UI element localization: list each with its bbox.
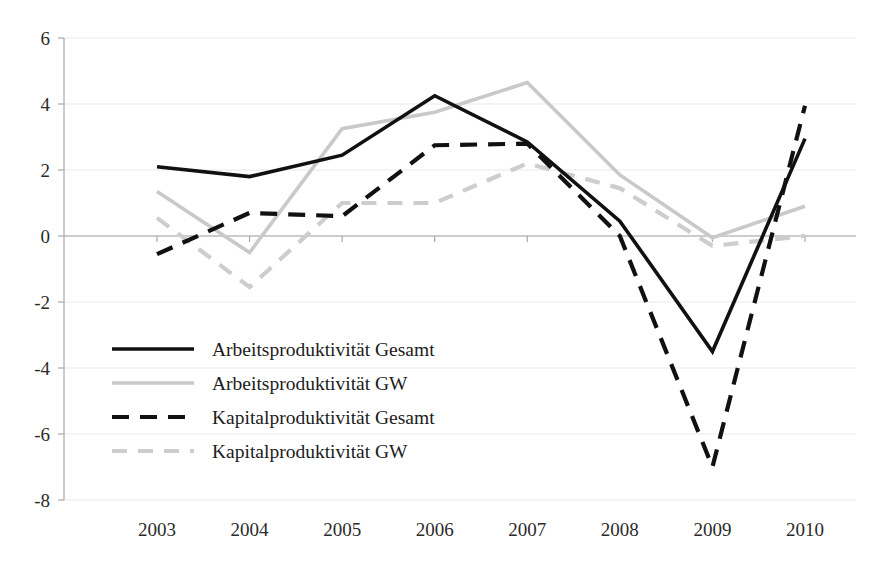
y-axis-label-0: 0 (41, 226, 51, 247)
x-axis-label-2004: 2004 (231, 519, 270, 540)
y-axis-label-4: 4 (41, 94, 51, 115)
line-chart: 6420-2-4-6-8 200320042005200620072008200… (0, 0, 870, 567)
series-line-arbeitsproduktivit-t-gw (157, 83, 805, 253)
y-axis-label--2: -2 (34, 292, 50, 313)
x-axis-label-2003: 2003 (138, 519, 176, 540)
y-axis-label-6: 6 (41, 28, 51, 49)
legend-label-3: Kapitalproduktivität GW (212, 441, 408, 462)
x-axis-label-2008: 2008 (601, 519, 639, 540)
legend: Arbeitsproduktivität GesamtArbeitsproduk… (112, 339, 435, 462)
y-axis-label--6: -6 (34, 424, 50, 445)
legend-label-1: Arbeitsproduktivität GW (212, 373, 408, 394)
x-axis-label-2010: 2010 (786, 519, 824, 540)
x-tick-labels-group: 20032004200520062007200820092010 (138, 519, 824, 540)
series-line-kapitalproduktivit-t-gw (157, 163, 805, 287)
y-tick-labels-group: 6420-2-4-6-8 (34, 28, 50, 511)
y-axis-label--4: -4 (34, 358, 50, 379)
legend-label-0: Arbeitsproduktivität Gesamt (212, 339, 435, 360)
x-axis-label-2006: 2006 (416, 519, 454, 540)
x-axis-label-2007: 2007 (508, 519, 546, 540)
axes-group (58, 38, 805, 500)
legend-label-2: Kapitalproduktivität Gesamt (212, 407, 435, 428)
chart-container: 6420-2-4-6-8 200320042005200620072008200… (0, 0, 870, 567)
y-axis-label-2: 2 (41, 160, 51, 181)
x-axis-label-2009: 2009 (693, 519, 731, 540)
x-axis-label-2005: 2005 (323, 519, 361, 540)
y-axis-label--8: -8 (34, 490, 50, 511)
series-line-arbeitsproduktivit-t-gesamt (157, 96, 805, 352)
